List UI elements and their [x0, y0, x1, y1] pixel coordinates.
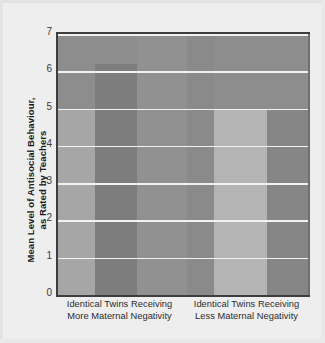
- mid-background-band: [137, 34, 187, 295]
- bar-more-negativity-fill: [95, 64, 137, 295]
- x-category-label-2: Identical Twins Receiving Less Maternal …: [183, 299, 310, 333]
- y-tick-label-7: 7: [34, 27, 52, 37]
- page-edge-right: [321, 0, 325, 343]
- y-axis-tick-labels: 76543210: [34, 26, 52, 300]
- right-background-band-fill: [267, 109, 310, 295]
- bar-more-negativity: [95, 34, 137, 295]
- y-tick-label-1: 1: [34, 251, 52, 261]
- y-tick-label-5: 5: [34, 102, 52, 112]
- bar-less-negativity: [214, 34, 267, 295]
- y-tick-label-6: 6: [34, 64, 52, 74]
- y-tick-label-0: 0: [34, 288, 52, 298]
- chart-page: Mean Level of Antisocial Behaviour, as R…: [0, 0, 325, 343]
- right-background-band: [267, 34, 310, 295]
- inner-background-band: [187, 34, 214, 295]
- x-axis-category-labels: Identical Twins Receiving More Maternal …: [56, 299, 310, 333]
- y-tick-label-3: 3: [34, 176, 52, 186]
- page-edge-top: [0, 0, 325, 3]
- plot-right-edge: [308, 34, 310, 295]
- bar-bands: [58, 34, 310, 295]
- bar-less-negativity-fill: [214, 109, 267, 295]
- page-edge-bottom: [0, 339, 325, 343]
- mid-background-band-fill: [137, 34, 187, 295]
- left-background-band: [58, 34, 95, 295]
- inner-background-band-fill: [187, 34, 214, 295]
- left-background-band-fill: [58, 109, 95, 295]
- plot-area: [56, 32, 310, 297]
- page-edge-left: [0, 0, 3, 343]
- x-category-label-1: Identical Twins Receiving More Maternal …: [56, 299, 183, 333]
- y-tick-label-4: 4: [34, 139, 52, 149]
- y-tick-label-2: 2: [34, 213, 52, 223]
